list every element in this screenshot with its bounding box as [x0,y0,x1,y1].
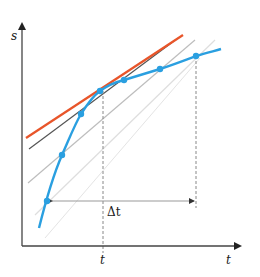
secant-line-close [29,41,174,149]
x-axis-label: t [226,253,231,267]
delta-t-label: Δt [107,205,121,219]
y-axis-label: s [11,29,17,43]
curve-point [44,198,50,204]
curve-point [97,88,103,94]
tangent-line [26,35,183,138]
tangent-secant-diagram: s t t Δt [0,0,260,277]
secant-line-mid [28,40,195,183]
t-tick-label: t [100,253,105,267]
curve-point [59,152,65,158]
curve-point [157,66,163,72]
curve-point [78,111,84,117]
curve-point [193,53,199,59]
curve-point [121,77,127,83]
secant-line-far [35,40,215,215]
